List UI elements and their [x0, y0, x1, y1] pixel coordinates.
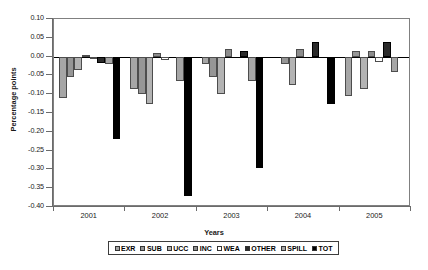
bar-spill-2003: [248, 57, 256, 81]
y-tick-mark: [46, 112, 52, 113]
bar-tot-2004: [327, 57, 335, 104]
bar-ucc-2005: [360, 57, 368, 89]
legend-label: EXR: [121, 245, 135, 252]
legend-item-other[interactable]: OTHER: [245, 245, 276, 252]
bar-tot-2003: [256, 57, 264, 168]
bar-sub-2001: [67, 57, 75, 78]
legend-item-spill[interactable]: SPILL: [281, 245, 307, 252]
bar-sub-2004: [281, 57, 289, 65]
bar-sub-2003: [209, 57, 217, 78]
y-tick-mark: [46, 37, 52, 38]
bar-sub-2002: [138, 57, 146, 95]
bar-inc-2005: [368, 51, 376, 57]
legend-label: WEA: [223, 245, 239, 252]
x-tick-mark: [53, 206, 54, 211]
y-tick-mark: [46, 150, 52, 151]
y-tick-mark: [46, 131, 52, 132]
legend-swatch-exr-icon: [115, 246, 120, 251]
bar-wea-2001: [90, 57, 98, 59]
y-tick-mark: [46, 18, 52, 19]
y-tick-label: 0.10: [30, 14, 44, 21]
y-tick-label: -0.15: [28, 108, 44, 115]
bar-inc-2001: [82, 55, 90, 57]
bar-exr-2002: [130, 57, 138, 89]
x-tick-label-2003: 2003: [212, 212, 252, 220]
plot-area: [53, 18, 410, 206]
legend-item-inc[interactable]: INC: [193, 245, 212, 252]
legend-swatch-sub-icon: [140, 246, 145, 251]
legend-label: OTHER: [251, 245, 276, 252]
x-tick-mark: [410, 206, 411, 211]
legend-item-sub[interactable]: SUB: [140, 245, 161, 252]
legend-swatch-ucc-icon: [167, 246, 172, 251]
bar-other-2001: [97, 57, 105, 64]
x-axis-line: [52, 206, 410, 207]
legend-label: UCC: [173, 245, 188, 252]
bar-exr-2005: [345, 57, 353, 96]
y-tick-label: -0.10: [28, 89, 44, 96]
bar-ucc-2001: [74, 57, 82, 70]
x-tick-label-2004: 2004: [283, 212, 323, 220]
x-axis-title: Years: [0, 228, 428, 237]
legend-swatch-spill-icon: [281, 246, 286, 251]
y-tick-mark: [46, 74, 52, 75]
bar-tot-2002: [184, 57, 192, 196]
y-tick-label: 0.00: [30, 52, 44, 59]
bar-other-2004: [312, 42, 320, 57]
legend-label: SUB: [147, 245, 162, 252]
x-tick-label-2005: 2005: [354, 212, 394, 220]
legend-swatch-tot-icon: [312, 246, 317, 251]
legend-item-exr[interactable]: EXR: [115, 245, 136, 252]
chart-legend: EXRSUBUCCINCWEAOTHERSPILLTOT: [108, 241, 339, 255]
bar-wea-2002: [161, 57, 169, 60]
y-axis-line: [52, 18, 53, 206]
bar-spill-2005: [391, 57, 399, 72]
x-tick-mark: [124, 206, 125, 211]
bar-exr-2003: [202, 57, 210, 65]
x-tick-label-2002: 2002: [140, 212, 180, 220]
y-tick-mark: [46, 187, 52, 188]
bar-exr-2001: [59, 57, 67, 98]
bar-spill-2002: [176, 57, 184, 81]
x-tick-mark: [339, 206, 340, 211]
bar-tot-2001: [113, 57, 121, 140]
bar-other-2005: [383, 42, 391, 57]
y-tick-label: 0.05: [30, 33, 44, 40]
bar-ucc-2003: [217, 57, 225, 95]
x-tick-mark: [267, 206, 268, 211]
x-tick-label-2001: 2001: [69, 212, 109, 220]
y-tick-label: -0.35: [28, 183, 44, 190]
bar-sub-2005: [352, 51, 360, 57]
legend-item-ucc[interactable]: UCC: [167, 245, 189, 252]
bar-inc-2004: [296, 49, 304, 57]
bar-wea-2005: [375, 57, 383, 63]
y-tick-label: -0.30: [28, 164, 44, 171]
bar-ucc-2004: [289, 57, 297, 85]
y-tick-label: -0.05: [28, 70, 44, 77]
legend-item-wea[interactable]: WEA: [217, 245, 240, 252]
y-tick-label: -0.20: [28, 127, 44, 134]
y-tick-mark: [46, 93, 52, 94]
legend-swatch-wea-icon: [217, 246, 222, 251]
chart-root: Percentage points 0.100.050.00-0.05-0.10…: [0, 0, 428, 270]
y-tick-label: -0.25: [28, 146, 44, 153]
legend-item-tot[interactable]: TOT: [312, 245, 332, 252]
x-tick-mark: [196, 206, 197, 211]
y-tick-mark: [46, 168, 52, 169]
bar-other-2003: [240, 51, 248, 57]
legend-label: INC: [200, 245, 212, 252]
legend-swatch-inc-icon: [193, 246, 198, 251]
bar-inc-2003: [225, 49, 233, 57]
bar-spill-2001: [105, 57, 113, 65]
y-tick-mark: [46, 56, 52, 57]
bar-inc-2002: [153, 53, 161, 57]
legend-label: TOT: [319, 245, 333, 252]
legend-swatch-other-icon: [245, 246, 250, 251]
legend-label: SPILL: [287, 245, 307, 252]
y-tick-label: -0.40: [28, 202, 44, 209]
y-tick-mark: [46, 206, 52, 207]
y-axis-title: Percentage points: [9, 50, 18, 150]
bar-ucc-2002: [146, 57, 154, 104]
